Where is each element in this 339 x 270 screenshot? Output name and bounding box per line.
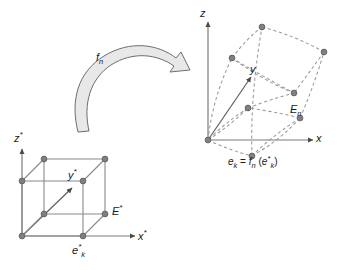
physical-axis-x-label: x [316,133,322,144]
mapping-arrow-graphic [0,0,339,270]
mapping-function-label: fn [96,52,103,66]
reference-axis-z-label: z* [14,131,23,144]
physical-element-label: En [290,104,302,118]
reference-axis-y-label: y* [68,168,77,181]
reference-axis-x-label: x* [138,229,147,242]
physical-axis-z-label: z [200,8,206,19]
reference-node-label: e*k [72,243,85,258]
reference-element-label: E* [112,204,122,217]
physical-axis-y-label: y [250,64,256,75]
figure-canvas: fn z* x* y* E* e*k z x y En ek = fn (e*k… [0,0,339,270]
mapping-equation: ek = fn (e*k) [228,155,278,170]
